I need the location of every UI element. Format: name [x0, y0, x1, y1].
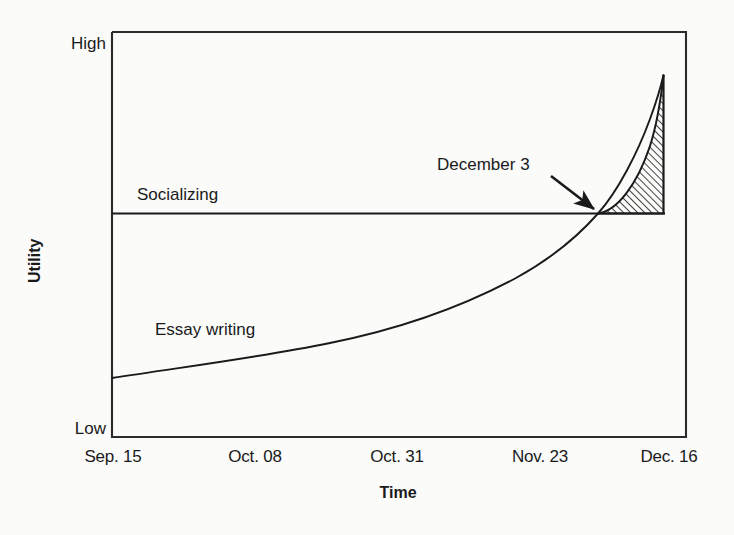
y-axis-title: Utility — [26, 239, 44, 283]
series-label-essay-writing: Essay writing — [155, 320, 255, 340]
x-tick-label-1: Sep. 15 — [84, 447, 141, 467]
x-axis-title: Time — [379, 484, 416, 502]
y-axis-low-label: Low — [75, 419, 106, 439]
x-tick-label-4: Nov. 23 — [512, 447, 568, 467]
x-tick-label-5: Dec. 16 — [640, 447, 697, 467]
december3-arrow-icon — [551, 176, 594, 209]
x-tick-label-3: Oct. 31 — [370, 447, 423, 467]
hatched-surplus-region — [598, 75, 665, 214]
y-axis-high-label: High — [71, 34, 106, 54]
plot-frame — [112, 32, 686, 437]
x-tick-label-2: Oct. 08 — [228, 447, 281, 467]
annotation-december-3: December 3 — [437, 155, 530, 175]
series-label-socializing: Socializing — [137, 185, 218, 205]
chart-figure: High Low Utility Socializing Essay writi… — [0, 0, 734, 535]
